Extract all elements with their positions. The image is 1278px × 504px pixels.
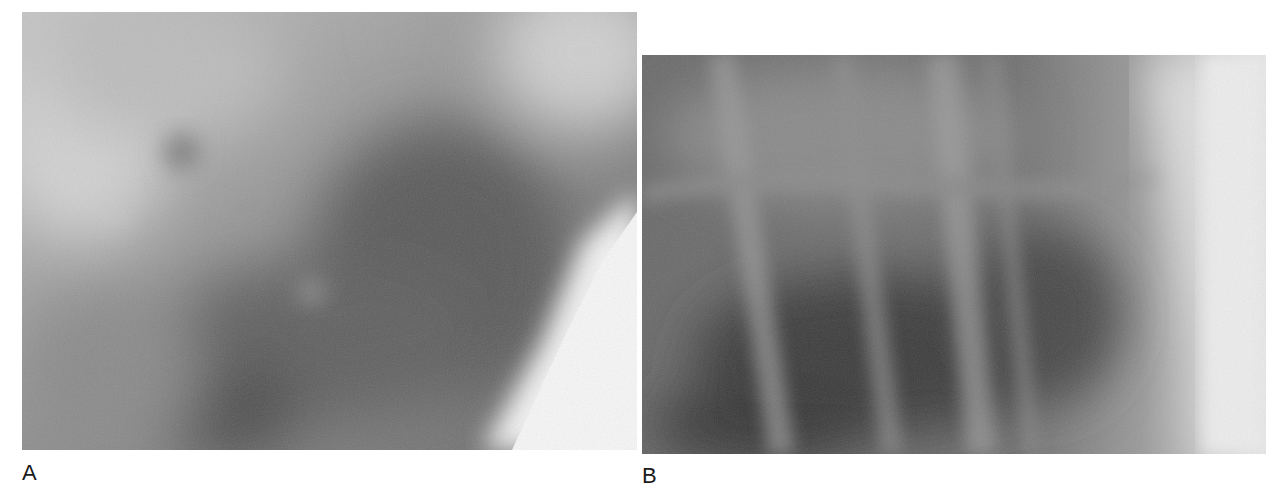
panel-label-b: B: [642, 465, 657, 487]
panel-label-a: A: [22, 462, 37, 484]
radiograph-panel-a: [22, 12, 637, 450]
radiograph-image-a: [22, 12, 637, 450]
radiograph-image-b: [642, 55, 1266, 454]
radiograph-panel-b: [642, 55, 1266, 454]
